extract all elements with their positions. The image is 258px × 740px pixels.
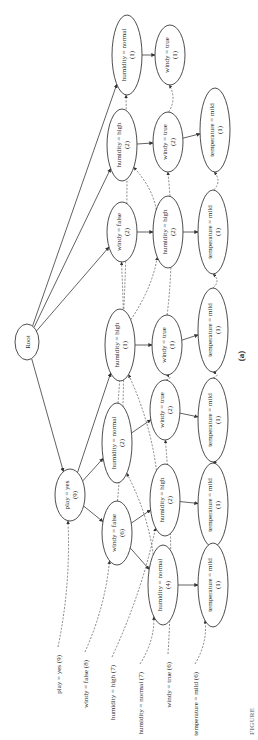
tree-edge <box>36 247 109 331</box>
tree-edge <box>182 335 198 340</box>
header-table-item: play = yes (9) <box>55 654 63 693</box>
tree-node-n_tm1d: temperature = mild(1) <box>198 378 228 462</box>
node-link-pointer <box>85 561 110 652</box>
tree-node-n_tm1e: temperature = mild(1) <box>198 463 228 547</box>
header-table: play = yes (9)windy = false (8)humidity … <box>55 654 200 735</box>
header-table-item: humidity = high (7) <box>109 664 117 720</box>
node-link-pointer <box>195 620 206 664</box>
node-link-pointer <box>169 85 173 112</box>
node-link-pointer <box>214 172 218 190</box>
tree-edge <box>180 502 198 504</box>
header-table-item: humidity = normal (7) <box>137 671 145 734</box>
tree-edge <box>183 134 200 138</box>
subfigure-caption: (a) <box>236 351 246 362</box>
tree-edge <box>34 169 111 328</box>
tree-node-n_tm1c: temperature = mild(1) <box>198 288 228 372</box>
header-table-item: windy = false (8) <box>82 659 90 708</box>
tree-edge <box>84 506 103 522</box>
node-link-pointer <box>140 617 154 664</box>
node-link-pointers <box>58 85 218 664</box>
tree-edge <box>33 84 117 326</box>
node-label: Root <box>24 335 32 349</box>
tree-edge <box>131 510 150 523</box>
node-link-pointer <box>131 257 158 320</box>
tree-edge <box>180 413 198 417</box>
header-table-item: windy = true (6) <box>165 661 173 707</box>
tree-edge <box>83 458 104 481</box>
tree-node-n_tm1b: temperature = mild(1) <box>198 190 228 274</box>
header-table-item: temperature = mild (6) <box>192 671 200 735</box>
tree-node-n_hn1: humidity = normal(1) <box>112 15 142 95</box>
tree-nodes: Rootplay = yes(9)humidity = normal(1)hum… <box>15 15 230 627</box>
node-link-pointer <box>134 167 156 209</box>
tree-node-n_wt2a: windy = true(2) <box>153 112 183 172</box>
tree-node-n_wt1a: windy = true(1) <box>155 25 185 85</box>
tree-node-n_hh2b: humidity = high(2) <box>153 196 183 268</box>
tree-node-n_tm1f: temperature = mild(1) <box>198 543 228 627</box>
tree-edge <box>132 420 151 433</box>
tree-node-n_wt2b: windy = true(2) <box>150 380 180 440</box>
tree-node-n_hh2c: humidity = high(2) <box>150 464 180 536</box>
fp-tree-diagram: Rootplay = yes(9)humidity = normal(1)hum… <box>0 0 258 740</box>
tree-node-n_wf6: windy = false(6) <box>102 501 132 565</box>
node-link-pointer <box>166 375 170 380</box>
tree-node-n_hh2a: humidity = high(2) <box>107 109 137 181</box>
node-link-pointer <box>213 372 217 378</box>
tree-node-n_wf2: windy = false(2) <box>107 202 137 262</box>
tree-edge <box>130 548 149 569</box>
figure-tag: FIGURE <box>248 707 256 735</box>
tree-edge <box>32 359 64 472</box>
tree-edge <box>137 143 153 144</box>
tree-node-root: Root <box>15 324 39 360</box>
tree-node-n_py9: play = yes(9) <box>55 469 85 521</box>
node-link-pointer <box>213 274 217 288</box>
tree-node-n_tm1a: temperature = mild(1) <box>200 88 230 172</box>
tree-node-n_hn2: humidity = normal(2) <box>102 403 132 483</box>
tree-node-n_hh1: humidity = high(1) <box>105 309 135 381</box>
node-link-pointer <box>58 521 69 647</box>
tree-node-n_hn4: humidity = normal(4) <box>148 545 178 625</box>
tree-node-n_wt1b: windy = true(1) <box>152 315 182 375</box>
